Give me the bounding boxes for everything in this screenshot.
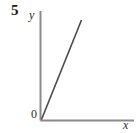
figure-number-label: 5 [11, 2, 19, 18]
x-axis-label: x [123, 119, 128, 131]
origin-label: 0 [31, 108, 37, 120]
graph-canvas [0, 0, 138, 133]
plotted-line [42, 20, 82, 120]
graph-figure: 5 y x 0 [0, 0, 138, 133]
y-axis-label: y [29, 9, 34, 21]
